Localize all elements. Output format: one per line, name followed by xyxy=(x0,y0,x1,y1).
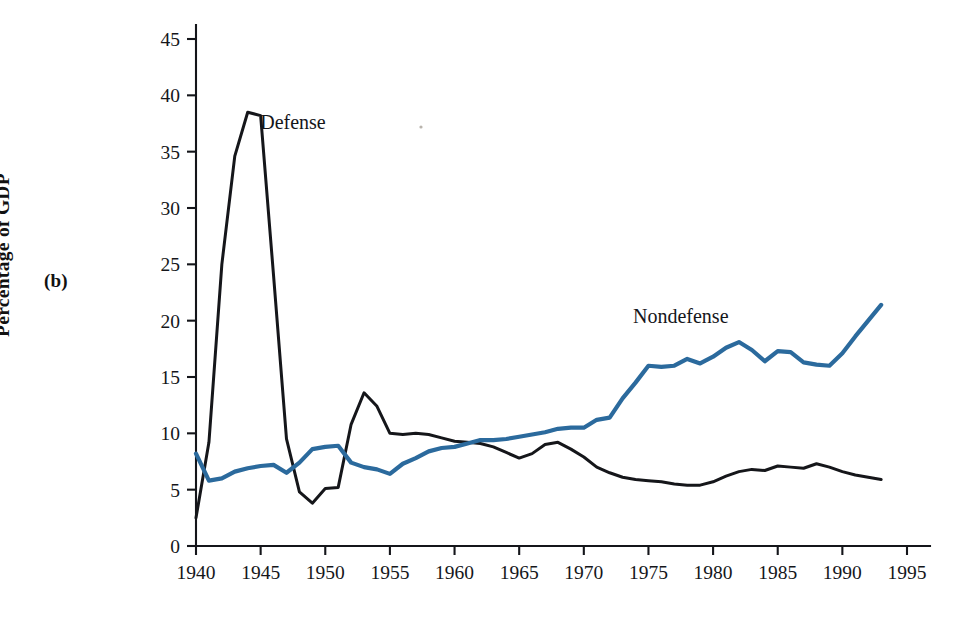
y-tick-label: 5 xyxy=(170,480,180,501)
y-axis-ticks: 051015202530354045 xyxy=(161,29,197,557)
y-tick-label: 40 xyxy=(161,85,181,106)
y-axis-title: Percentage of GDP xyxy=(0,105,14,405)
series-annotations: DefenseNondefense xyxy=(260,111,728,327)
x-tick-label: 1955 xyxy=(370,562,409,583)
x-tick-label: 1995 xyxy=(888,562,927,583)
scan-speck xyxy=(419,125,422,128)
x-tick-label: 1970 xyxy=(564,562,603,583)
figure-panel-b: (b) Percentage of GDP 051015202530354045… xyxy=(0,0,973,619)
x-tick-label: 1945 xyxy=(241,562,280,583)
data-series-group xyxy=(196,112,881,518)
line-chart-canvas: 051015202530354045 194019451950195519601… xyxy=(0,0,973,619)
axes-group xyxy=(196,25,930,546)
x-tick-label: 1975 xyxy=(629,562,668,583)
x-tick-label: 1940 xyxy=(177,562,216,583)
y-tick-label: 45 xyxy=(161,29,181,50)
series-label-nondefense: Nondefense xyxy=(633,305,729,327)
x-tick-label: 1980 xyxy=(694,562,733,583)
y-tick-label: 30 xyxy=(161,198,181,219)
y-tick-label: 15 xyxy=(161,367,181,388)
y-tick-label: 35 xyxy=(161,142,181,163)
x-tick-label: 1990 xyxy=(823,562,862,583)
y-tick-label: 25 xyxy=(161,254,181,275)
x-tick-label: 1985 xyxy=(758,562,797,583)
y-tick-label: 20 xyxy=(161,311,181,332)
x-tick-label: 1965 xyxy=(500,562,539,583)
x-tick-label: 1960 xyxy=(435,562,474,583)
series-label-defense: Defense xyxy=(260,111,326,133)
y-tick-label: 0 xyxy=(170,536,180,557)
x-axis-ticks: 1940194519501955196019651970197519801985… xyxy=(177,546,927,583)
y-tick-label: 10 xyxy=(161,423,181,444)
panel-label: (b) xyxy=(44,270,68,292)
series-line-nondefense xyxy=(196,305,881,481)
x-tick-label: 1950 xyxy=(306,562,345,583)
series-line-defense xyxy=(196,112,881,518)
